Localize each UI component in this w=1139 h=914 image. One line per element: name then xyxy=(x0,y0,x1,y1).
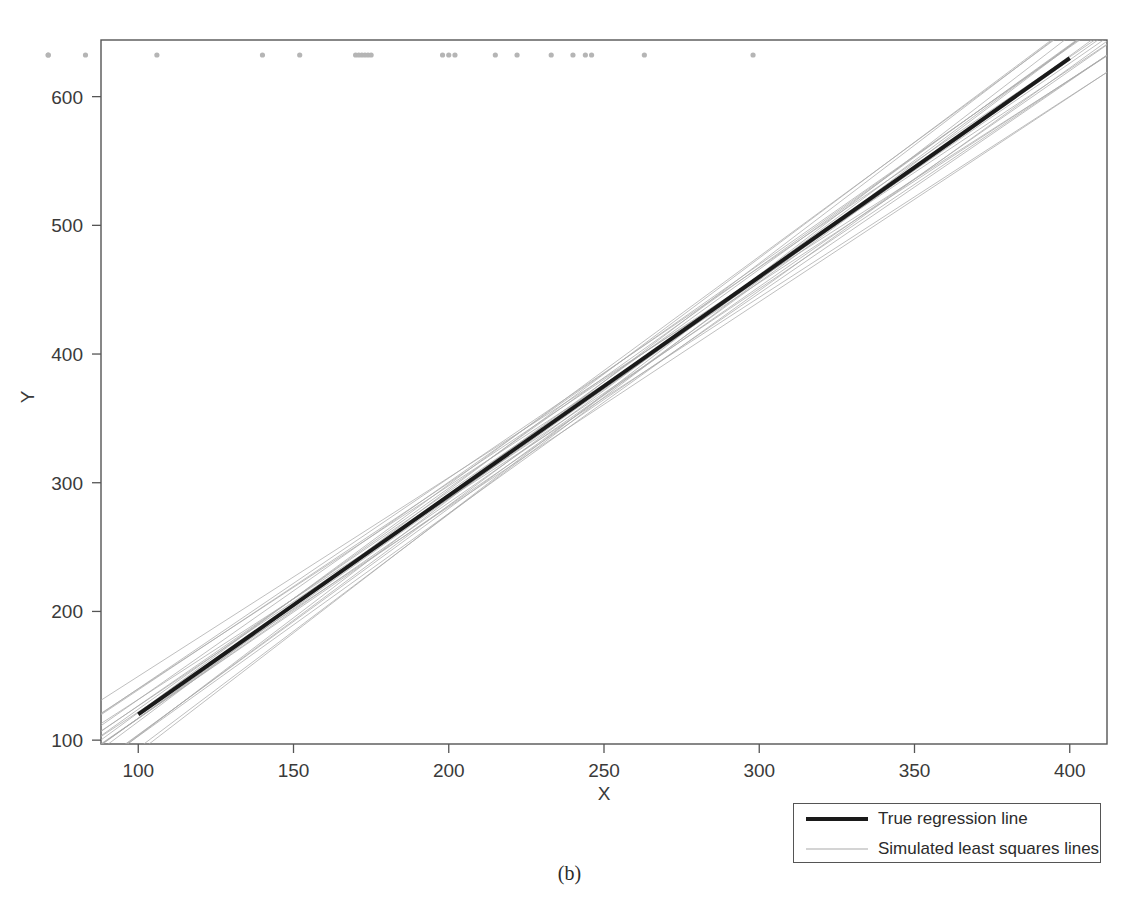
y-tick-label: 100 xyxy=(51,730,83,751)
rug-point xyxy=(446,52,451,57)
rug-point xyxy=(750,52,755,57)
rug-point xyxy=(549,52,554,57)
y-axis-title: Y xyxy=(17,390,38,403)
legend-swatch-simulated-lines xyxy=(806,842,868,856)
figure-container: 100150200250300350400 100200300400500600… xyxy=(0,0,1139,914)
x-tick-label: 350 xyxy=(899,760,931,781)
y-tick-label: 600 xyxy=(51,87,83,108)
y-axis: 100200300400500600 xyxy=(51,87,101,752)
rug-point xyxy=(154,52,159,57)
figure-caption: (b) xyxy=(0,862,1139,885)
legend-swatch-true-line xyxy=(806,812,868,826)
rug-point xyxy=(369,52,374,57)
legend-item-simulated-lines: Simulated least squares lines xyxy=(794,834,1100,864)
x-axis-title: X xyxy=(598,783,611,804)
y-tick-label: 400 xyxy=(51,344,83,365)
rug-point xyxy=(440,52,445,57)
legend-label-simulated-lines: Simulated least squares lines xyxy=(868,839,1099,859)
rug-point xyxy=(570,52,575,57)
x-axis: 100150200250300350400 xyxy=(122,744,1085,781)
rug-point xyxy=(297,52,302,57)
rug-point xyxy=(642,52,647,57)
rug-point xyxy=(493,52,498,57)
x-tick-label: 150 xyxy=(278,760,310,781)
y-tick-label: 500 xyxy=(51,215,83,236)
x-tick-label: 400 xyxy=(1054,760,1086,781)
legend-item-true-line: True regression line xyxy=(794,804,1100,834)
rug-point xyxy=(83,52,88,57)
rug-point xyxy=(589,52,594,57)
y-tick-label: 200 xyxy=(51,601,83,622)
regression-plot: 100150200250300350400 100200300400500600… xyxy=(0,0,1139,914)
x-tick-label: 300 xyxy=(743,760,775,781)
y-tick-label: 300 xyxy=(51,473,83,494)
rug-point xyxy=(46,52,51,57)
rug-point xyxy=(583,52,588,57)
rug-point xyxy=(514,52,519,57)
rug-point xyxy=(260,52,265,57)
legend-label-true-line: True regression line xyxy=(868,809,1028,829)
legend: True regression line Simulated least squ… xyxy=(793,803,1101,863)
rug-point xyxy=(452,52,457,57)
x-tick-label: 200 xyxy=(433,760,465,781)
x-tick-label: 250 xyxy=(588,760,620,781)
x-tick-label: 100 xyxy=(122,760,154,781)
